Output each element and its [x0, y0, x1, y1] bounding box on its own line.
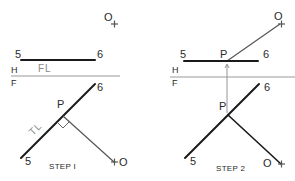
- step2-front-label-p: P: [219, 100, 226, 112]
- step2-caption: STEP 2: [216, 164, 245, 173]
- step1-front-label-p: P: [57, 98, 64, 110]
- step2-front-label-6: 6: [264, 81, 270, 93]
- step1-front-point-o-label: O: [119, 156, 128, 168]
- step1-top-point-o-label: O: [104, 11, 113, 23]
- step2-front-point-o-label: O: [263, 157, 272, 169]
- step2-fold-label-h: H: [172, 65, 179, 75]
- step2-top-label-p: P: [220, 48, 227, 60]
- step2-front-line-p-o: [228, 115, 281, 164]
- step2-top-line-p-o: [227, 24, 280, 61]
- step2-top-label-6: 6: [263, 48, 269, 60]
- step1-front-line-5-6: [21, 84, 95, 158]
- step1-front-label-5: 5: [25, 155, 31, 167]
- step2-top-point-o-label: O: [274, 10, 283, 22]
- step1-fold-label-h: H: [11, 65, 18, 75]
- step1-fold-label-f: F: [11, 78, 17, 88]
- step1-tl-annotation: TL: [27, 120, 44, 137]
- step-2-panel: O 5 P 6 H F 6 5 P O STEP 2: [170, 10, 295, 173]
- step2-fold-label-f: F: [172, 78, 178, 88]
- step-1-panel: O 5 6 FL H F 6 5 P TL O STEP I: [11, 11, 128, 171]
- step1-right-angle-icon: [57, 122, 69, 128]
- step1-front-label-6: 6: [97, 81, 103, 93]
- step1-top-label-5: 5: [15, 48, 21, 60]
- step1-fl-annotation: FL: [38, 63, 52, 74]
- step2-front-line-5-6: [185, 84, 259, 158]
- step1-caption: STEP I: [49, 162, 76, 171]
- step2-front-label-5: 5: [190, 155, 196, 167]
- step1-perpendicular-p-o: [63, 116, 114, 162]
- step1-top-label-6: 6: [97, 48, 103, 60]
- step2-top-label-5: 5: [180, 48, 186, 60]
- drawing-canvas: O 5 6 FL H F 6 5 P TL O STEP I: [0, 0, 295, 181]
